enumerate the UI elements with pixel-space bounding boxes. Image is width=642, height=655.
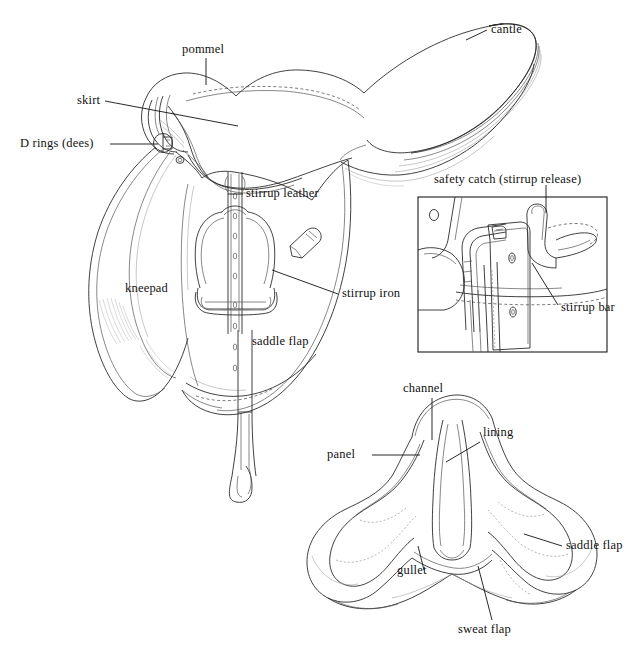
label-skirt: skirt [77,93,100,107]
label-stirrup-bar: stirrup bar [560,300,616,314]
label-saddle-flap-main: saddle flap [252,334,309,348]
label-saddle-flap-under: saddle flap [566,538,623,552]
label-sweat-flap: sweat flap [458,622,511,636]
label-d-rings: D rings (dees) [20,136,94,150]
leader-saddle-flap-under [524,534,562,546]
label-kneepad: kneepad [125,281,168,295]
label-panel: panel [327,447,355,461]
label-gullet: gullet [397,563,427,577]
label-stirrup-iron: stirrup iron [342,286,400,300]
leader-stirrup-bar [532,263,558,305]
label-safety-catch: safety catch (stirrup release) [434,172,581,186]
label-stirrup-leather: stirrup leather [246,186,319,200]
leader-skirt [105,101,238,126]
label-lining: lining [483,425,513,439]
saddle-anatomy-figure: pommel cantle skirt D rings (dees) stirr… [0,0,642,655]
label-cantle: cantle [491,22,522,36]
underside-saddle-drawing [307,395,597,609]
leader-lining [446,442,480,462]
label-channel: channel [403,381,443,395]
leader-lines [105,30,562,620]
main-saddle-drawing [89,24,541,503]
leader-stirrup-iron [272,270,338,294]
inset-detail-drawing [418,197,607,352]
label-pommel: pommel [182,42,224,56]
